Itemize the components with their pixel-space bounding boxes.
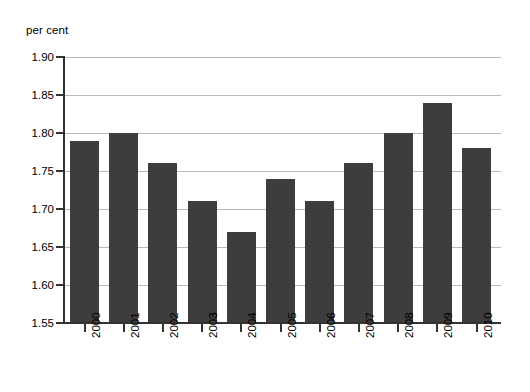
y-axis-tick-labels: 1.901.851.801.751.701.651.601.55	[0, 0, 54, 392]
x-axis-tick-label: 2009	[442, 312, 454, 338]
bar	[188, 201, 217, 323]
y-axis-tick-label: 1.55	[6, 317, 54, 329]
x-axis-tick-label: 2006	[325, 312, 337, 338]
gridline	[64, 95, 501, 96]
bar	[148, 163, 177, 323]
y-axis-tick	[56, 170, 64, 172]
y-axis-tick-label: 1.85	[6, 89, 54, 101]
y-axis-tick-label: 1.70	[6, 203, 54, 215]
y-axis-tick	[56, 284, 64, 286]
x-axis-tick-label: 2008	[403, 312, 415, 338]
x-axis-tick-label: 2000	[90, 312, 102, 338]
bar	[70, 141, 99, 323]
x-axis-tick-label: 2007	[364, 312, 376, 338]
bar	[109, 133, 138, 323]
y-axis-tick	[56, 132, 64, 134]
gridline	[64, 57, 501, 58]
bar-chart: per cent 1.901.851.801.751.701.651.601.5…	[0, 0, 530, 392]
y-axis-tick-label: 1.90	[6, 51, 54, 63]
x-axis-tick	[436, 324, 438, 332]
bar	[344, 163, 373, 323]
y-axis-tick	[56, 94, 64, 96]
x-axis-tick	[84, 324, 86, 332]
x-axis-tick	[397, 324, 399, 332]
y-axis-tick	[56, 322, 64, 324]
x-axis-tick	[319, 324, 321, 332]
y-axis-tick-label: 1.80	[6, 127, 54, 139]
x-axis-tick	[123, 324, 125, 332]
x-axis-tick	[201, 324, 203, 332]
bar	[462, 148, 491, 323]
bar	[384, 133, 413, 323]
y-axis-tick-label: 1.65	[6, 241, 54, 253]
x-axis-tick	[240, 324, 242, 332]
x-axis-tick	[162, 324, 164, 332]
x-axis-tick	[280, 324, 282, 332]
x-axis-tick-label: 2010	[482, 312, 494, 338]
plot-area	[64, 57, 501, 323]
bar	[423, 103, 452, 323]
y-axis-tick-label: 1.75	[6, 165, 54, 177]
bar	[227, 232, 256, 323]
y-axis-tick	[56, 56, 64, 58]
x-axis-tick	[358, 324, 360, 332]
x-axis-tick-label: 2002	[168, 312, 180, 338]
x-axis-tick-label: 2004	[246, 312, 258, 338]
y-axis-tick	[56, 208, 64, 210]
x-axis-tick-label: 2005	[286, 312, 298, 338]
x-axis-tick	[476, 324, 478, 332]
y-axis-tick	[56, 246, 64, 248]
bar	[305, 201, 334, 323]
x-axis-tick-label: 2001	[129, 312, 141, 338]
x-axis-tick-label: 2003	[207, 312, 219, 338]
bar	[266, 179, 295, 323]
y-axis-tick-label: 1.60	[6, 279, 54, 291]
